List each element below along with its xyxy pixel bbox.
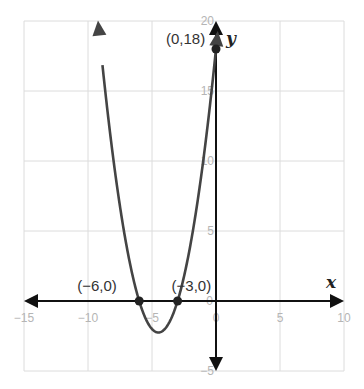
x-tick-label: 10 [337, 311, 351, 325]
point-label: (−6,0) [77, 277, 117, 294]
x-axis-label: x [325, 272, 337, 292]
y-tick-label: 20 [201, 14, 215, 28]
grid-lines [24, 21, 344, 371]
x-axis-right-arrow-icon [330, 294, 344, 308]
x-axis-left-arrow-icon [24, 294, 38, 308]
curve-arrow-icon [92, 21, 106, 37]
axes [24, 21, 344, 371]
labeled-points: (−6,0)(−3,0)(0,18) [77, 30, 220, 306]
y-tick-label: 5 [207, 224, 214, 238]
x-tick-label: 5 [277, 311, 284, 325]
data-point-marker [173, 297, 182, 306]
data-point-marker [135, 297, 144, 306]
point-label: (−3,0) [172, 277, 212, 294]
point-label: (0,18) [166, 30, 205, 47]
x-tick-label: −15 [14, 311, 35, 325]
y-axis-label: y [225, 28, 237, 48]
tick-labels: −15−10−50510−505101520 [14, 14, 351, 378]
y-tick-label: −5 [200, 364, 214, 378]
x-tick-label: −10 [78, 311, 99, 325]
data-point-marker [212, 45, 221, 54]
parabola-chart: −15−10−50510−505101520 (−6,0)(−3,0)(0,18… [0, 0, 364, 389]
